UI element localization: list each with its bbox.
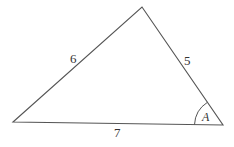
side-label-right: 5: [184, 53, 191, 68]
angle-label: A: [201, 110, 210, 124]
triangle-diagram: 6 5 7 A: [0, 0, 234, 147]
side-label-base: 7: [114, 125, 121, 140]
triangle: [13, 7, 223, 125]
side-label-left: 6: [70, 51, 77, 66]
